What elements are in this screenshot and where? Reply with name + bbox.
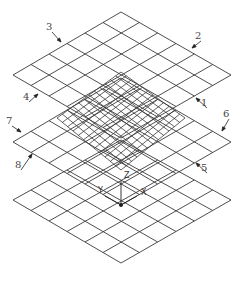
middle-layer xyxy=(13,78,231,205)
y-axis xyxy=(105,196,121,205)
callout-label-6: 6 xyxy=(223,109,229,119)
callout-label-8: 8 xyxy=(15,160,21,170)
callout-label-3: 3 xyxy=(46,22,52,32)
callout-label-4: 4 xyxy=(23,92,29,102)
arrowhead-icon xyxy=(17,128,21,132)
x-axis-label: X xyxy=(141,188,147,197)
y-axis-label: Y xyxy=(97,186,103,195)
arrowhead-icon xyxy=(28,154,32,158)
callout-label-2: 2 xyxy=(195,31,201,41)
callout-label-1: 1 xyxy=(201,98,207,108)
z-axis-label: Z xyxy=(124,171,130,180)
bottom-layer xyxy=(13,140,231,263)
x-axis xyxy=(121,196,137,205)
callout-label-7: 7 xyxy=(6,116,12,126)
diagram-canvas: XYZ xyxy=(0,0,240,282)
arrowhead-icon xyxy=(222,127,225,131)
grid-layers xyxy=(13,12,231,263)
origin-dot xyxy=(119,203,122,206)
callout-label-5: 5 xyxy=(201,163,207,173)
